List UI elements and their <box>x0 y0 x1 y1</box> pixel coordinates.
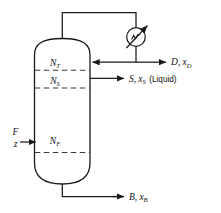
side-stream-label: S,xS(Liquid) <box>129 74 177 85</box>
feed-label-F: F <box>12 127 19 137</box>
column-diagram-canvas: NT NS NF F z D,xD S,xS(Liquid) B,xB <box>0 0 221 213</box>
overhead-vapor-line <box>62 13 136 39</box>
process-flow-diagram: NT NS NF F z D,xD S,xS(Liquid) B,xB <box>0 0 221 213</box>
distillate-label: D,xD <box>170 57 192 68</box>
bottoms-outlet-line <box>62 184 124 197</box>
distillation-column-vessel <box>35 39 91 185</box>
feed-label-z: z <box>13 139 18 149</box>
bottoms-label: B,xB <box>129 192 148 203</box>
